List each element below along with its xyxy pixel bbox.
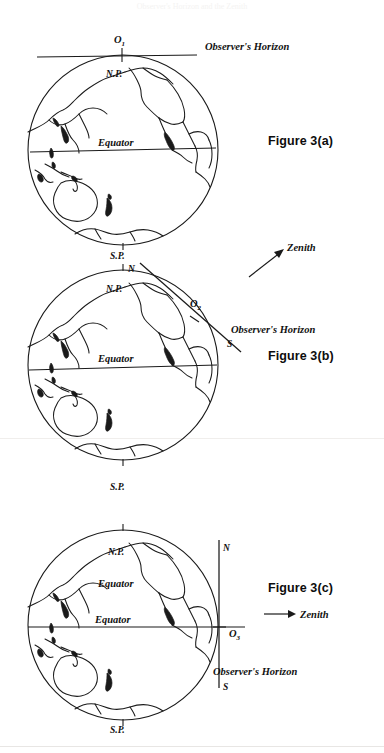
horizon-label-b: Observer's Horizon: [231, 324, 315, 335]
figure-caption-b: Figure 3(b): [268, 349, 334, 363]
north-end-label-b: N: [127, 264, 136, 274]
zenith-label-c: Zenith: [299, 609, 329, 620]
figure-caption-c: Figure 3(c): [268, 581, 333, 595]
figure-caption-a: Figure 3(a): [268, 134, 333, 148]
north-pole-label-b: N.P.: [105, 284, 122, 294]
zenith-arrow-b: [249, 249, 284, 277]
horizon-label-c: Observer's Horizon: [213, 666, 297, 677]
coastlines-a: [28, 68, 212, 241]
horizon-label-a: Observer's Horizon: [205, 41, 289, 52]
equator-line-a: [30, 148, 216, 152]
globe-outline-c: [28, 530, 218, 720]
south-end-label-b: S: [227, 339, 232, 349]
south-pole-label-b: S.P.: [110, 482, 125, 492]
north-pole-label-a: N.P.: [105, 69, 122, 79]
coastlines-c: [28, 543, 212, 716]
observer-tick-b: [190, 316, 199, 322]
north-pole-label-c: N.P.: [107, 547, 124, 557]
figure-a-group: O1 Observer's Horizon N.P. Equator S.P.: [28, 34, 289, 261]
south-end-label-c: S: [223, 682, 228, 692]
diagram-page: Observer's Horizon and the Zenith: [0, 0, 384, 753]
equator-line-b: [29, 365, 217, 370]
observer-label-a: O1: [114, 34, 125, 48]
equator-label-b: Equator: [97, 353, 135, 364]
south-pole-label-c: S.P.: [110, 725, 125, 735]
south-pole-label-a: S.P.: [110, 251, 125, 261]
zenith-label-b: Zenith: [286, 242, 316, 253]
earth-horizon-diagram: O1 Observer's Horizon N.P. Equator S.P. …: [0, 0, 384, 753]
observer-label-b: O2: [190, 298, 202, 312]
figure-c-group: N S O3 N.P. Equator Equator Observer's H…: [28, 524, 329, 735]
figure-b-group: N S O2 N.P. Equator Observer's Horizon S…: [28, 242, 316, 492]
zenith-arrow-c: [264, 610, 296, 618]
observer-label-c: O3: [229, 628, 241, 642]
north-end-label-c: N: [222, 543, 231, 553]
equator-label-a: Equator: [97, 137, 135, 148]
equator-upper-label-c: Equator: [97, 578, 135, 589]
equator-lower-label-c: Equator: [94, 614, 132, 625]
